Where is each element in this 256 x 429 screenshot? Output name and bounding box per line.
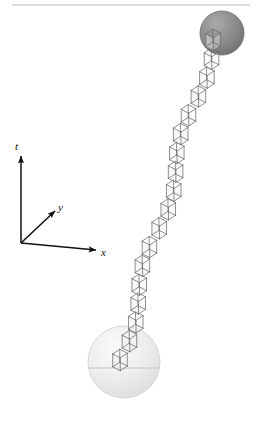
cube-edge [135,255,142,260]
worldtube-cube [181,105,196,126]
worldtube-cube [152,218,167,239]
sphere-layer-back [88,11,244,398]
worldtube-cube [132,274,147,295]
spacetime-diagram: tyx [0,0,256,429]
worldtube-cube [191,86,206,107]
cube-edge [161,199,168,204]
figure-container: tyx [0,0,256,429]
cube-edge [152,218,159,223]
cube-edge [173,123,180,128]
cube-edge [142,236,149,241]
worldtube-cube [131,293,146,314]
axis-x: x [21,243,106,258]
axis-y-label: y [57,201,63,213]
worldtube-cube [128,312,143,333]
axis-t: t [15,140,21,243]
axes-triad: tyx [15,140,106,258]
cube-edge [200,67,207,72]
worldtube-cube [161,199,176,220]
cube-edge [170,142,177,147]
axis-x-label: x [100,246,106,258]
worldtube-cube [166,180,181,201]
cube-edge [181,105,188,110]
worldtube-layer [113,29,221,370]
worldtube-cube [168,161,183,182]
axis-x-line [21,243,96,250]
cube-edge [132,274,139,279]
worldtube-cube [200,67,215,88]
axis-t-label: t [15,140,19,152]
axis-y: y [21,201,63,243]
worldtube-cube [173,123,188,144]
axis-y-line [21,211,55,243]
cube-edge [191,86,198,91]
worldtube-cube [142,236,157,257]
worldtube-cube [170,142,185,163]
worldtube-cube [135,255,150,276]
